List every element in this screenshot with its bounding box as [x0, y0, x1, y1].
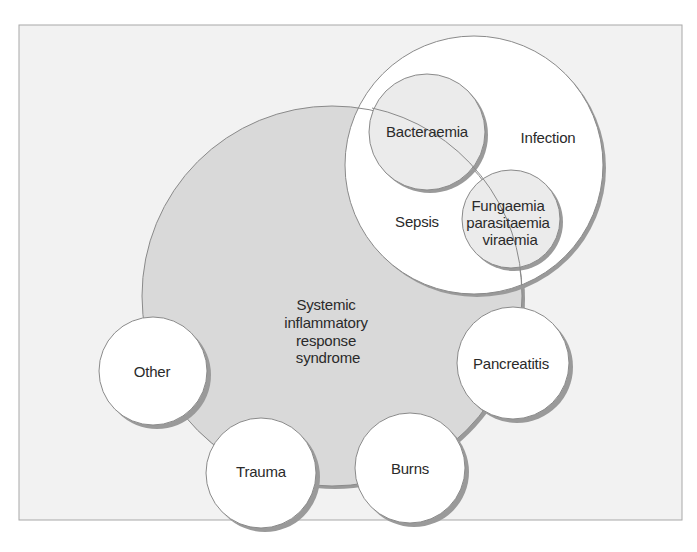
- sepsis-label: Sepsis: [395, 213, 439, 230]
- trauma-label: Trauma: [236, 463, 287, 480]
- other-label: Other: [134, 363, 171, 380]
- burns-label: Burns: [391, 460, 429, 477]
- sirs-sepsis-diagram: Systemic inflammatory response syndrome …: [0, 0, 697, 552]
- pancreatitis-label: Pancreatitis: [473, 355, 549, 372]
- infection-label: Infection: [521, 129, 576, 146]
- bacteraemia-label: Bacteraemia: [386, 123, 469, 140]
